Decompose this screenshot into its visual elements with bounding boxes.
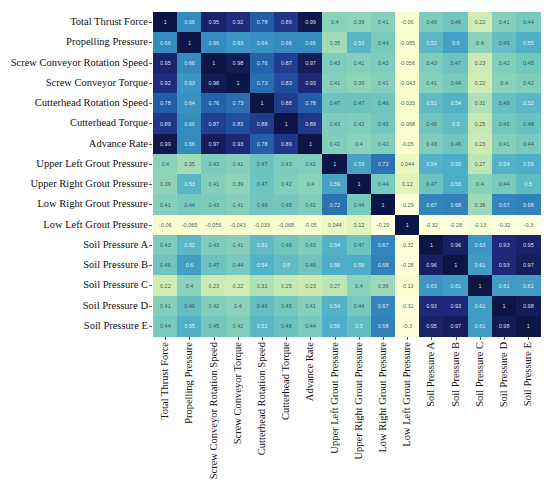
x-tick: [286, 337, 287, 340]
heatmap-cell: 0.72: [371, 154, 396, 175]
heatmap-cell: 0.39: [347, 12, 372, 33]
heatmap-cell: 0.98: [201, 73, 226, 94]
heatmap-cell: 0.43: [201, 194, 226, 215]
heatmap-cell: 0.93: [492, 255, 517, 276]
heatmap-cell: 0.96: [443, 235, 468, 256]
x-tick: [480, 337, 481, 340]
heatmap-cell: 0.68: [516, 194, 541, 215]
heatmap-cell: 1: [347, 174, 372, 195]
x-tick: [431, 337, 432, 340]
y-tick: [149, 285, 152, 286]
heatmap-cell: 1: [250, 93, 275, 114]
heatmap-cell: -0.056: [201, 215, 226, 236]
heatmap-cell: 0.44: [371, 174, 396, 195]
y-tick: [149, 164, 152, 165]
heatmap-cell: 0.42: [298, 154, 323, 175]
heatmap-cell: -0.13: [468, 215, 493, 236]
heatmap-cell: 0.47: [201, 255, 226, 276]
heatmap-cell: 0.25: [274, 275, 299, 296]
heatmap-cell: 0.66: [153, 32, 178, 53]
y-axis-label: Soil Pressure A: [83, 239, 148, 251]
heatmap-cell: 0.63: [468, 235, 493, 256]
heatmap-cell: 0.44: [516, 12, 541, 33]
x-tick: [335, 337, 336, 340]
heatmap-cell: 0.66: [177, 134, 202, 155]
heatmap-cell: 0.41: [201, 174, 226, 195]
x-axis-label: Upper Right Grout Pressure: [353, 342, 365, 460]
heatmap-cell: 1: [395, 215, 420, 236]
heatmap-cell: 0.96: [419, 255, 444, 276]
heatmap-cell: 0.47: [250, 174, 275, 195]
heatmap-cell: -0.065: [177, 215, 202, 236]
y-axis-label: Soil Pressure E: [84, 320, 148, 332]
heatmap-cell: 0.47: [322, 93, 347, 114]
heatmap-cell: 0.47: [347, 235, 372, 256]
heatmap-cell: 0.93: [419, 296, 444, 317]
heatmap-cell: 0.5: [516, 174, 541, 195]
heatmap-cell: 0.46: [443, 12, 468, 33]
heatmap-cell: 0.66: [177, 12, 202, 33]
heatmap-cell: 0.49: [492, 32, 517, 53]
y-tick: [149, 245, 152, 246]
heatmap-cell: 0.67: [371, 296, 396, 317]
heatmap-cell: 0.99: [298, 12, 323, 33]
x-tick: [189, 337, 190, 340]
heatmap-cell: 0.55: [177, 316, 202, 337]
heatmap-cell: 0.44: [298, 316, 323, 337]
heatmap-cell: 0.61: [468, 296, 493, 317]
y-tick: [149, 265, 152, 266]
y-axis-label: Screw Conveyor Torque: [46, 77, 148, 89]
y-tick: [149, 204, 152, 205]
heatmap-cell: 1: [226, 73, 251, 94]
heatmap-cell: 0.44: [516, 134, 541, 155]
heatmap-cell: 0.66: [177, 53, 202, 74]
heatmap-cell: 0.23: [468, 134, 493, 155]
heatmap-cell: 0.43: [274, 154, 299, 175]
heatmap-cell: 0.63: [226, 32, 251, 53]
y-tick: [149, 83, 152, 84]
heatmap-cell: 0.67: [371, 235, 396, 256]
heatmap-cell: 0.88: [250, 113, 275, 134]
heatmap-cell: 0.4: [322, 12, 347, 33]
heatmap-cell: 0.67: [492, 194, 517, 215]
heatmap-cell: 0.48: [516, 113, 541, 134]
heatmap-cell: 0.44: [347, 296, 372, 317]
heatmap-cell: 0.89: [153, 113, 178, 134]
heatmap-cell: 0.41: [153, 296, 178, 317]
heatmap-cell: 0.35: [322, 32, 347, 53]
heatmap-cell: 0.72: [322, 194, 347, 215]
heatmap-cell: 0.87: [201, 113, 226, 134]
heatmap-cell: 0.42: [516, 73, 541, 94]
heatmap-cell: 0.78: [250, 134, 275, 155]
heatmap-cell: 0.54: [250, 255, 275, 276]
heatmap-cell: 0.4: [468, 32, 493, 53]
heatmap-cell: 0.66: [177, 113, 202, 134]
heatmap-cell: 0.45: [516, 53, 541, 74]
heatmap-cell: 0.44: [347, 194, 372, 215]
heatmap-cell: -0.32: [395, 296, 420, 317]
x-axis-label: Total Thrust Force: [159, 342, 171, 420]
heatmap-cell: 0.46: [371, 93, 396, 114]
heatmap-cell: 0.31: [468, 93, 493, 114]
heatmap-cell: -0.28: [443, 215, 468, 236]
heatmap-cell: 0.52: [250, 316, 275, 337]
heatmap-cell: 0.4: [298, 174, 323, 195]
x-axis-label: Propelling Pressure: [183, 342, 195, 424]
heatmap-cell: 0.56: [443, 174, 468, 195]
heatmap-cell: 0.4: [177, 275, 202, 296]
heatmap-cell: 0.76: [250, 53, 275, 74]
heatmap-cell: 0.41: [226, 154, 251, 175]
heatmap-cell: 0.83: [274, 73, 299, 94]
heatmap-cell: 0.43: [419, 134, 444, 155]
heatmap-cell: 0.22: [153, 275, 178, 296]
heatmap-cell: 0.36: [371, 275, 396, 296]
x-tick: [504, 337, 505, 340]
heatmap-cell: 0.49: [250, 296, 275, 317]
heatmap-cell: 0.49: [492, 93, 517, 114]
heatmap-cell: 0.78: [153, 93, 178, 114]
heatmap-cell: 0.68: [371, 255, 396, 276]
heatmap-cell: 1: [371, 194, 396, 215]
heatmap-cell: 0.35: [177, 154, 202, 175]
heatmap-cell: 0.64: [177, 93, 202, 114]
heatmap-cell: -0.043: [226, 215, 251, 236]
